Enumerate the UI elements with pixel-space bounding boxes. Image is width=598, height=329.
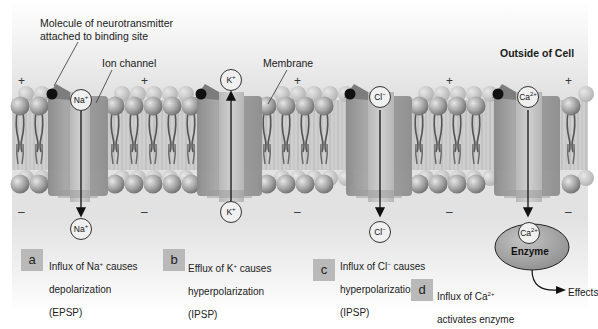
- enzyme-label: Enzyme: [511, 246, 549, 257]
- positive-charge: +: [18, 75, 25, 87]
- membrane-label: Membrane: [263, 57, 313, 69]
- calcium-ion-outside: Ca2+: [517, 86, 539, 108]
- potassium-ion-inside: K+: [220, 201, 242, 223]
- negative-charge: –: [294, 206, 301, 218]
- neurotransmitter-label-line2: attached to binding site: [40, 30, 148, 42]
- panel-caption-b: Efflux of K+ causes hyperpolarization (I…: [188, 251, 271, 329]
- negative-charge: –: [446, 206, 453, 218]
- sodium-ion-outside: Na+: [70, 89, 92, 111]
- panel-badge-c: c: [313, 259, 335, 281]
- chloride-ion-inside: Cl−: [369, 221, 391, 243]
- positive-charge: +: [446, 75, 453, 87]
- sodium-ion-inside: Na+: [70, 218, 92, 240]
- positive-charge: +: [565, 75, 572, 87]
- negative-charge: –: [141, 206, 148, 218]
- outside-of-cell-label: Outside of Cell: [500, 47, 574, 59]
- negative-charge: –: [565, 206, 572, 218]
- effects-label: Effects: [568, 287, 598, 299]
- panel-caption-d: Influx of Ca2+ activates enzyme: [437, 279, 514, 329]
- potassium-ion-outside: K+: [220, 69, 242, 91]
- chloride-ion-outside: Cl−: [369, 86, 391, 108]
- ion-channel-label: Ion channel: [102, 57, 156, 69]
- negative-charge: –: [18, 206, 25, 218]
- panel-caption-a: Influx of Na+ causes depolarization (EPS…: [49, 249, 138, 329]
- panel-badge-b: b: [163, 249, 185, 271]
- panel-badge-d: d: [411, 279, 433, 301]
- calcium-ion-bound-to-enzyme: Ca2+: [518, 222, 540, 244]
- panel-badge-a: a: [21, 249, 43, 271]
- positive-charge: +: [141, 75, 148, 87]
- positive-charge: +: [294, 75, 301, 87]
- neurotransmitter-label-line1: Molecule of neurotransmitter: [40, 17, 173, 29]
